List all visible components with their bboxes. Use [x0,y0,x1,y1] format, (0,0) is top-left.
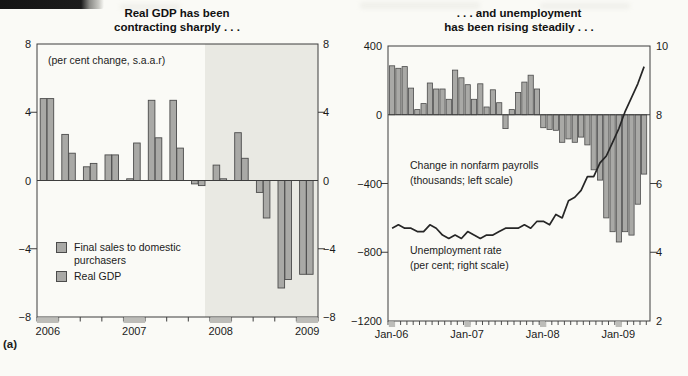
right-chart-left-axis-tick-label: −400 [344,178,382,191]
bar [40,99,47,181]
month-label: Jan-09 [593,328,643,341]
right-chart-left-axis-tick-label: 400 [344,40,382,53]
bar [235,133,242,181]
bar [440,89,445,115]
bar [453,70,458,115]
bar [242,158,249,180]
bar [579,115,584,137]
figure-page: Real GDP has been contracting sharply . … [0,0,688,376]
legend-item-final-sales: Final sales to domestic purchasers [56,241,216,267]
bar [629,115,634,235]
bar [465,85,470,115]
year-label: 2008 [201,325,241,338]
bar [421,104,426,115]
bar [547,115,552,130]
year-label: 2009 [287,325,327,338]
payrolls-annotation-line1: Change in nonfarm payrolls [410,158,538,173]
bar [566,115,571,139]
bar [213,165,220,180]
year-label: 2007 [114,325,154,338]
final-sales-label: Final sales to domestic purchasers [74,241,216,267]
bar [402,67,407,115]
bar [522,82,527,115]
unemployment-annotation-line2: (per cent; right scale) [410,258,509,273]
year-start-block [210,318,232,324]
bar [553,115,558,131]
bar [155,138,162,181]
bar [509,110,514,115]
right-chart-title-line1: . . . and unemployment [409,7,629,21]
bar [427,83,432,115]
year-start-block [124,318,146,324]
bar [459,78,464,115]
payrolls-annotation: Change in nonfarm payrolls (thousands; l… [410,158,538,188]
bar [396,68,401,114]
legend-item-real-gdp: Real GDP [56,270,216,283]
bar [534,89,539,115]
bar [610,115,615,232]
bar [516,92,521,114]
bar [560,115,565,143]
right-chart-left-axis-tick-label: −1200 [344,315,382,328]
year-start-block [464,322,470,328]
bar [484,107,489,115]
year-start-block [616,322,622,328]
left-axis-tick-label: 8 [3,38,31,51]
bar [591,115,596,170]
bar [541,115,546,128]
bar [170,100,177,180]
year-start-block [37,318,59,324]
right-chart-right-axis-tick-label: 6 [656,178,686,191]
left-chart-title: Real GDP has been contracting sharply . … [67,7,287,34]
bar [623,115,628,232]
bar [256,181,263,193]
real-gdp-swatch-icon [56,271,67,282]
bar [446,99,451,115]
left-chart-title-line2: contracting sharply . . . [67,21,287,35]
bar [478,84,483,115]
figure-label: (a) [3,338,17,350]
final-sales-swatch-icon [56,242,67,253]
left-chart-title-line1: Real GDP has been [67,7,287,21]
right-chart-left-axis-tick-label: −800 [344,246,382,259]
right-chart-right-axis-tick-label: 8 [656,109,686,122]
bar [83,167,90,181]
bar [69,153,76,180]
bar [148,100,155,180]
left-axis-tick-label: 0 [3,175,31,188]
right-chart-right-axis-tick-label: 2 [656,315,686,328]
bar [90,163,97,180]
bar [415,110,420,115]
bar [300,181,307,275]
year-label: 2006 [28,325,68,338]
bar [490,90,495,115]
bar [198,181,205,186]
bar [390,66,395,115]
bar [263,181,270,219]
bar [307,181,314,275]
bar [471,99,476,115]
bar [62,134,69,180]
left-chart-unit-label: (per cent change, s.a.a.r) [48,54,165,66]
bar [112,155,119,181]
month-label: Jan-08 [518,328,568,341]
bar [177,148,184,180]
right-chart-left-axis-tick-label: 0 [344,109,382,122]
unemployment-annotation: Unemployment rate (per cent; right scale… [410,243,509,273]
payrolls-annotation-line2: (thousands; left scale) [410,173,538,188]
bar [285,181,292,280]
bar [408,88,413,115]
year-start-block [296,318,318,324]
left-axis-tick-label: −4 [3,243,31,256]
bar [597,115,602,180]
bar [635,115,640,204]
right-chart-title: . . . and unemployment has been rising s… [409,7,629,34]
year-start-block [540,322,546,328]
bar [278,181,285,289]
left-axis-tick-label: 4 [3,106,31,119]
bar [503,115,508,129]
bar [642,115,647,174]
year-start-block [389,322,395,328]
unemployment-annotation-line1: Unemployment rate [410,243,509,258]
bar [105,155,112,181]
